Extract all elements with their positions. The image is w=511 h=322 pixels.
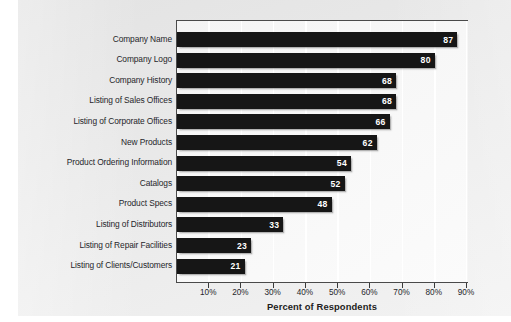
tick-label-50: 50% (329, 288, 345, 297)
tick-label-40: 40% (297, 288, 313, 297)
bar-row: 23 (177, 238, 467, 253)
x-axis-title: Percent of Respondents (176, 301, 468, 312)
bar-3: 68 (177, 94, 396, 109)
bar-6: 54 (177, 156, 351, 171)
category-label-11: Listing of Clients/Customers (71, 260, 172, 270)
category-label-7: Catalogs (140, 178, 172, 188)
bar-value-label: 80 (421, 55, 431, 65)
bar-row: 87 (177, 32, 467, 47)
chart-plot-area: 878068686662545248332321 (176, 20, 468, 283)
tick-label-30: 30% (264, 288, 280, 297)
tick-label-60: 60% (361, 288, 377, 297)
tick-label-20: 20% (232, 288, 248, 297)
bar-4: 66 (177, 114, 390, 129)
category-label-9: Listing of Distributors (96, 219, 172, 229)
category-label-10: Listing of Repair Facilities (79, 240, 172, 250)
bar-7: 52 (177, 176, 345, 191)
category-label-0: Company Name (113, 34, 172, 44)
tick-label-80: 80% (426, 288, 442, 297)
bar-value-label: 52 (330, 179, 340, 189)
bar-row: 80 (177, 53, 467, 68)
bar-row: 33 (177, 217, 467, 232)
bar-2: 68 (177, 73, 396, 88)
bar-row: 52 (177, 176, 467, 191)
bar-value-label: 62 (363, 138, 373, 148)
category-label-6: Product Ordering Information (67, 157, 172, 167)
bar-1: 80 (177, 53, 435, 68)
bar-5: 62 (177, 135, 377, 150)
category-label-1: Company Logo (116, 54, 172, 64)
tick-label-10: 10% (200, 288, 216, 297)
category-label-5: New Products (121, 137, 172, 147)
bar-0: 87 (177, 32, 457, 47)
tick-label-90: 90% (458, 288, 474, 297)
bar-value-label: 68 (382, 96, 392, 106)
bar-value-label: 68 (382, 76, 392, 86)
bar-11: 21 (177, 259, 245, 274)
bar-10: 23 (177, 238, 251, 253)
category-axis-labels: Company NameCompany LogoCompany HistoryL… (10, 20, 174, 275)
bar-row: 21 (177, 259, 467, 274)
bar-value-label: 87 (443, 35, 453, 45)
bar-9: 33 (177, 217, 283, 232)
bar-row: 54 (177, 156, 467, 171)
category-label-4: Listing of Corporate Offices (73, 116, 172, 126)
bar-row: 68 (177, 94, 467, 109)
bar-value-label: 48 (317, 199, 327, 209)
bar-value-label: 33 (269, 220, 279, 230)
bar-row: 48 (177, 197, 467, 212)
bar-value-label: 66 (375, 117, 385, 127)
tick-label-70: 70% (393, 288, 409, 297)
bar-row: 66 (177, 114, 467, 129)
scanned-page-canvas: Company NameCompany LogoCompany HistoryL… (0, 0, 511, 322)
bar-value-label: 21 (230, 261, 240, 271)
category-label-8: Product Specs (119, 198, 172, 208)
bar-value-label: 54 (337, 158, 347, 168)
bar-8: 48 (177, 197, 332, 212)
category-label-2: Company History (109, 75, 172, 85)
bar-value-label: 23 (237, 241, 247, 251)
category-label-3: Listing of Sales Offices (89, 95, 172, 105)
bar-row: 62 (177, 135, 467, 150)
x-axis-tick-labels: 10%20%30%40%50%60%70%80%90% (176, 288, 468, 302)
bar-row: 68 (177, 73, 467, 88)
